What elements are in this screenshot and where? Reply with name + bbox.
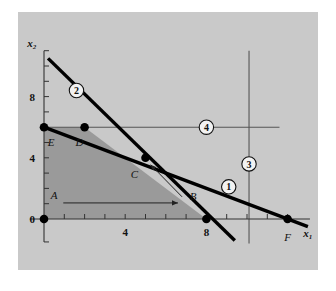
point-label-c: C — [131, 168, 139, 180]
badge-label-4: 4 — [204, 122, 209, 133]
point-label-d: D — [75, 136, 84, 148]
x-tick-label: 4 — [122, 226, 128, 238]
data-point-f — [283, 215, 292, 224]
point-label-e: E — [47, 136, 55, 148]
figure-container: 48480 ABCDEF 1234 x₂x₁ — [0, 0, 336, 291]
data-point — [40, 215, 49, 224]
line-badge-4: 4 — [199, 120, 213, 134]
y-tick-label: 4 — [30, 152, 36, 164]
line-badge-2: 2 — [69, 83, 83, 97]
data-point-d — [80, 123, 89, 132]
badge-label-1: 1 — [226, 181, 231, 192]
badge-label-2: 2 — [74, 85, 79, 96]
point-label-b: B — [190, 190, 197, 202]
data-point-c — [141, 154, 150, 163]
x-tick-label: 8 — [204, 226, 210, 238]
data-point-e — [40, 123, 49, 132]
line-badge-1: 1 — [222, 180, 236, 194]
point-label-f: F — [283, 231, 291, 243]
badge-label-3: 3 — [247, 159, 252, 170]
y-tick-label: 8 — [30, 91, 36, 103]
y-axis-label: x₂ — [26, 37, 37, 49]
line-badge-3: 3 — [242, 157, 256, 171]
x-axis-label: x₁ — [302, 227, 312, 239]
point-label-a: A — [50, 189, 58, 201]
origin-label: 0 — [30, 213, 36, 225]
linear-programming-plot: 48480 ABCDEF 1234 x₂x₁ — [0, 0, 336, 291]
data-point — [202, 215, 211, 224]
